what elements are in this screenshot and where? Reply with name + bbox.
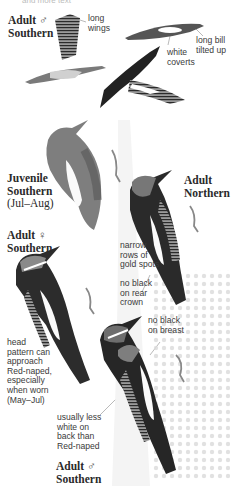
label-adult-female-southern: Adult ♀ Southern <box>7 229 52 254</box>
bird-juvenile-southern <box>46 120 120 230</box>
note-breast: no black on breast <box>148 316 184 335</box>
note-less-white: usually less white on back than Red-nape… <box>57 413 101 451</box>
note-long-bill: long bill tilted up <box>196 36 226 55</box>
flying-bird-right <box>125 24 204 40</box>
field-guide-plate: and more text <box>0 0 235 486</box>
note-long-wings: long wings <box>88 14 110 33</box>
label-adult-northern: Adult Northern <box>184 174 230 199</box>
label-juvenile-southern: Juvenile Southern (Jul–Aug) <box>7 172 54 210</box>
note-white-coverts: white coverts <box>167 48 195 67</box>
note-gold-spots: narrow rows of gold spots <box>120 241 159 270</box>
note-head-pattern: head pattern can approach Red-naped, esp… <box>7 338 52 405</box>
label-adult-male-southern-bottom: Adult ♂ Southern <box>56 460 101 485</box>
note-rear-crown: no black on rear crown <box>120 279 152 308</box>
label-adult-male-southern-top: Adult ♂ Southern <box>8 14 53 39</box>
